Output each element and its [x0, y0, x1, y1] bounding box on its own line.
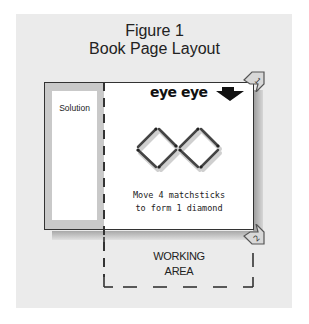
matchstick-puzzle-diagram: [130, 122, 230, 176]
brand-logo-text: eye eye: [150, 84, 208, 101]
matchstick: [159, 129, 176, 146]
page-shadow-right: [253, 90, 263, 236]
figure-title: Figure 1: [0, 22, 309, 40]
matchstick: [180, 150, 198, 167]
figure-subtitle: Book Page Layout: [0, 40, 309, 58]
solution-label: Solution: [52, 103, 97, 113]
corner-marker-1-icon: 1: [242, 70, 266, 92]
solution-column: Solution: [45, 83, 104, 229]
solution-box: Solution: [52, 91, 97, 220]
puzzle-caption-line2: to form 1 diamond: [105, 203, 253, 213]
matchstick: [138, 150, 156, 167]
matchstick: [201, 129, 218, 146]
working-area: WORKING AREA: [103, 231, 255, 288]
working-area-label-line1: WORKING: [103, 250, 255, 262]
working-area-label-line2: AREA: [103, 265, 255, 277]
puzzle-caption-line1: Move 4 matchsticks: [105, 190, 253, 200]
